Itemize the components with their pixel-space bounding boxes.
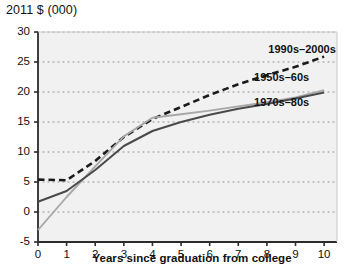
y-tick-label: 15	[0, 116, 30, 127]
y-tick-label: 25	[0, 56, 30, 67]
y-tick-label: 10	[0, 146, 30, 157]
y-tick-label: -5	[0, 236, 30, 247]
series-label-1950s-60s: 1950s–60s	[254, 71, 309, 83]
y-tick-label: 5	[0, 176, 30, 187]
series-label-1970s-80s: 1970s–80s	[254, 96, 309, 108]
series-label-1990s-2000s: 1990s–2000s	[268, 43, 336, 55]
chart-container: 2011 $ (000) 302520151050-5 012345678910…	[0, 0, 362, 274]
chart-plot-area	[0, 0, 362, 274]
y-tick-label: 0	[0, 206, 30, 217]
y-tick-label: 20	[0, 86, 30, 97]
x-axis-title: Years since graduation from college	[0, 252, 362, 264]
y-tick-label: 30	[0, 26, 30, 37]
